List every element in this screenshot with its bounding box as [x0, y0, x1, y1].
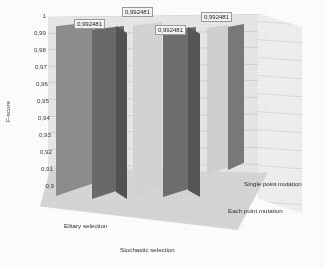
- category-label-elitary-selection: Elitary selection: [64, 222, 107, 229]
- y-tick-label: 0,9: [20, 182, 54, 189]
- chart-3d-bar-fscore: 1 0,99 0,98 0,97 0,96 0,95 0,94 0,93 0,9…: [0, 0, 325, 267]
- y-tick-label: 0,98: [12, 46, 46, 53]
- y-tick-label: 0,92: [18, 148, 52, 155]
- data-label-stochastic-selection: 0,992481: [122, 7, 153, 17]
- y-tick-label: 0,93: [17, 131, 51, 138]
- bar-stochastic-selection[interactable]: [92, 26, 124, 199]
- bar-front-face: [56, 22, 92, 196]
- data-label-elitary-selection: 0,992481: [74, 19, 105, 29]
- bar-front-face: [207, 25, 228, 175]
- bar-front-face: [133, 22, 162, 197]
- y-tick-label: 0,91: [19, 165, 53, 172]
- y-axis-title: F-score: [4, 92, 11, 132]
- category-label-single-point-mutation: Single point mutation: [244, 180, 302, 187]
- y-tick-label: 0,96: [14, 80, 48, 87]
- bar-each-point-mutation[interactable]: [133, 22, 162, 197]
- bar-elitary-selection[interactable]: [56, 22, 92, 196]
- bar-rear-sliver: [207, 25, 228, 175]
- category-label-each-point-mutation: Each point mutation: [228, 207, 283, 214]
- data-label-single-point-mutation: 0,992481: [201, 12, 232, 22]
- y-tick-label: 1: [16, 12, 46, 19]
- y-tick-label: 0,94: [16, 114, 50, 121]
- y-tick-label: 0,99: [12, 29, 46, 36]
- data-label-each-point-mutation: 0,992481: [155, 25, 186, 35]
- y-tick-label: 0,95: [15, 97, 49, 104]
- bar-single-point-mutation[interactable]: [163, 27, 196, 197]
- bar-side-face: [188, 27, 200, 197]
- bar-side-face: [116, 26, 127, 199]
- category-label-stochastic-selection: Stochastic selection: [120, 246, 175, 253]
- bar-rear-sliver-dark: [228, 24, 244, 170]
- bar-front-face: [228, 24, 244, 170]
- y-tick-label: 0,97: [13, 63, 47, 70]
